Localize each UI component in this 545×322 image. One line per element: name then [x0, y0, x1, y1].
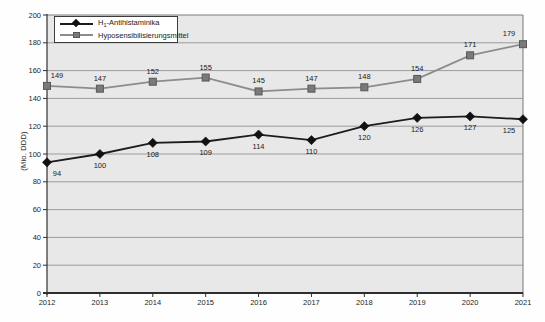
y-tick-label: 140	[28, 94, 41, 103]
data-label: 154	[411, 64, 424, 73]
x-tick-label: 2014	[144, 298, 161, 307]
square-line-marker-icon	[60, 31, 93, 40]
data-point-square	[149, 78, 156, 85]
diamond-line-marker-icon	[60, 19, 93, 28]
legend-item-h1-antihistaminika[interactable]: H1-Antihistaminika	[60, 19, 177, 29]
y-tick-label: 20	[33, 261, 41, 270]
data-label: 125	[503, 126, 516, 135]
y-axis-title: (Mio. DDD)	[19, 131, 28, 171]
y-tick-label: 80	[33, 177, 41, 186]
data-label: 108	[147, 150, 160, 159]
data-point-square	[44, 82, 51, 89]
legend-label-rest: -Antihistaminika	[106, 18, 159, 27]
x-tick-label: 2012	[39, 298, 56, 307]
data-label: 126	[411, 125, 424, 134]
data-point-square	[414, 75, 421, 82]
y-tick-label: 120	[28, 122, 41, 131]
x-tick-label: 2019	[409, 298, 426, 307]
data-label: 120	[358, 133, 371, 142]
data-label: 179	[503, 29, 516, 38]
data-label: 152	[147, 67, 160, 76]
y-tick-label: 160	[28, 66, 41, 75]
legend: H1-Antihistaminika Hyposensibilisierungs…	[54, 16, 178, 43]
legend-label-rest: Hyposensibilisierungsmittel	[98, 31, 188, 40]
chart-container: 0204060801001201401601802002012201320142…	[0, 0, 545, 322]
data-point-square	[467, 52, 474, 59]
x-tick-label: 2020	[462, 298, 479, 307]
y-tick-label: 200	[28, 11, 41, 20]
line-chart-svg: 0204060801001201401601802002012201320142…	[0, 0, 545, 322]
x-tick-label: 2013	[92, 298, 109, 307]
data-point-square	[96, 85, 103, 92]
legend-label-h1-antihistaminika: H1-Antihistaminika	[98, 18, 159, 30]
legend-label-hyposensibilisierungsmittel: Hyposensibilisierungsmittel	[98, 31, 188, 40]
data-point-square	[308, 85, 315, 92]
data-label: 155	[199, 63, 212, 72]
data-label: 171	[464, 40, 477, 49]
data-label: 145	[252, 76, 265, 85]
data-label: 147	[305, 74, 318, 83]
data-label: 147	[94, 74, 107, 83]
y-tick-label: 40	[33, 233, 41, 242]
x-tick-label: 2021	[515, 298, 532, 307]
data-label: 100	[94, 161, 107, 170]
data-label: 109	[199, 148, 212, 157]
x-tick-label: 2016	[250, 298, 267, 307]
legend-item-hyposensibilisierungsmittel[interactable]: Hyposensibilisierungsmittel	[60, 30, 177, 40]
data-label: 94	[53, 169, 61, 178]
data-point-square	[255, 88, 262, 95]
y-tick-label: 180	[28, 38, 41, 47]
x-tick-label: 2015	[197, 298, 214, 307]
data-point-square	[202, 74, 209, 81]
data-label: 149	[51, 71, 64, 80]
x-tick-label: 2017	[303, 298, 320, 307]
data-point-square	[361, 84, 368, 91]
data-label: 127	[464, 123, 477, 132]
data-label: 110	[305, 147, 317, 156]
x-tick-label: 2018	[356, 298, 373, 307]
data-label: 114	[253, 142, 265, 151]
y-tick-label: 100	[28, 150, 41, 159]
y-tick-label: 0	[37, 289, 41, 298]
data-label: 148	[358, 72, 371, 81]
y-tick-label: 60	[33, 205, 41, 214]
data-point-square	[520, 41, 527, 48]
